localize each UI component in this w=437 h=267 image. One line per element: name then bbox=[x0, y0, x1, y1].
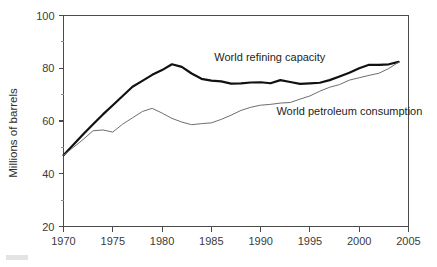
chart-figure: 20406080100 1970197519801985199019952000… bbox=[0, 0, 437, 267]
y-tick-label-80: 80 bbox=[42, 62, 54, 74]
x-tick-label-1975: 1975 bbox=[101, 235, 125, 247]
x-axis: 19701975198019851990199520002005 bbox=[51, 227, 420, 247]
x-tick-label-1990: 1990 bbox=[248, 235, 272, 247]
y-tick-label-40: 40 bbox=[42, 168, 54, 180]
x-tick-label-1995: 1995 bbox=[298, 235, 322, 247]
x-tick-label-2005: 2005 bbox=[396, 235, 420, 247]
annotation-world-refining-capacity: World refining capacity bbox=[214, 51, 326, 63]
scan-artifact bbox=[6, 255, 28, 260]
line-chart: 20406080100 1970197519801985199019952000… bbox=[0, 0, 437, 267]
x-tick-label-1980: 1980 bbox=[150, 235, 174, 247]
y-axis-title: Millions of barrels bbox=[7, 88, 19, 178]
x-tick-label-2000: 2000 bbox=[347, 235, 371, 247]
axis-frame bbox=[64, 16, 409, 227]
x-tick-label-1970: 1970 bbox=[51, 235, 75, 247]
y-tick-label-60: 60 bbox=[42, 115, 54, 127]
annotation-world-petroleum-consumption: World petroleum consumption bbox=[276, 105, 422, 117]
y-tick-label-100: 100 bbox=[36, 10, 54, 22]
y-axis: 20406080100 bbox=[36, 10, 63, 233]
y-tick-label-20: 20 bbox=[42, 221, 54, 233]
x-tick-label-1985: 1985 bbox=[199, 235, 223, 247]
